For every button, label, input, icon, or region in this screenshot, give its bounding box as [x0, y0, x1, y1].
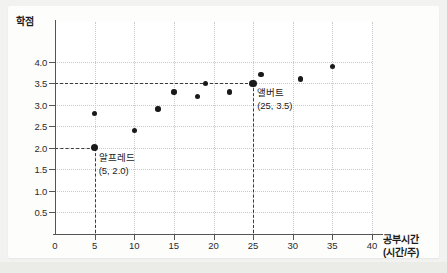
data-point — [171, 89, 176, 94]
data-point — [195, 94, 200, 99]
data-point — [227, 89, 232, 94]
y-axis-tick-label: 3.5 — [0, 78, 47, 89]
data-point — [92, 111, 97, 116]
gridline-horizontal — [55, 148, 372, 149]
x-axis-tick — [372, 234, 373, 240]
x-axis-title: 공부시간 (시간/주) — [383, 234, 419, 259]
data-point — [203, 81, 208, 86]
data-point — [155, 106, 160, 111]
y-axis-tick-label: 1.0 — [0, 185, 47, 196]
data-point — [249, 80, 256, 87]
gridline-vertical — [174, 22, 175, 234]
data-point — [132, 128, 137, 133]
annotation-name: 알프레드 — [99, 151, 135, 164]
data-point — [258, 72, 263, 77]
guide-line-vertical — [95, 148, 96, 234]
x-axis-tick-label: 15 — [159, 240, 189, 251]
x-axis-tick — [332, 234, 333, 240]
data-point — [298, 76, 303, 81]
y-axis-tick — [49, 83, 56, 84]
page-bottom-band — [0, 262, 447, 273]
x-axis-tick-label: 20 — [199, 240, 229, 251]
guide-line-vertical — [253, 83, 254, 233]
y-axis-tick — [49, 169, 56, 170]
annotation-name: 앨버트 — [257, 86, 292, 99]
y-axis-tick-label: 3.0 — [0, 99, 47, 110]
gridline-horizontal — [55, 105, 372, 106]
x-axis-tick — [253, 234, 254, 240]
x-axis-tick-label: 10 — [119, 240, 149, 251]
guide-line-horizontal — [55, 148, 95, 149]
point-annotation: 앨버트(25, 3.5) — [257, 86, 292, 112]
y-axis-tick-label: 2.5 — [0, 121, 47, 132]
x-axis-tick — [95, 234, 96, 240]
gridline-vertical — [372, 22, 373, 234]
gridline-horizontal — [55, 191, 372, 192]
x-axis-title-unit: (시간/주) — [383, 247, 419, 260]
x-axis-tick-label: 40 — [357, 240, 387, 251]
gridline-vertical — [214, 22, 215, 234]
y-axis-tick — [49, 148, 56, 149]
x-axis-tick-label: 5 — [80, 240, 110, 251]
point-annotation: 알프레드(5, 2.0) — [99, 151, 135, 177]
x-axis-tick-label: 0 — [40, 240, 70, 251]
y-axis-title: 학점 — [16, 13, 34, 28]
data-point — [91, 144, 98, 151]
x-axis-title-main: 공부시간 — [383, 234, 419, 247]
figure-card: 학점 공부시간 (시간/주) 0.51.01.52.02.53.03.54.0 … — [0, 0, 447, 273]
y-axis-tick-label: 2.0 — [0, 142, 47, 153]
y-axis-line — [55, 20, 56, 235]
y-axis-tick-label: 1.5 — [0, 164, 47, 175]
x-axis-tick — [134, 234, 135, 240]
y-axis-tick-label: 4.0 — [0, 56, 47, 67]
y-axis-tick — [49, 126, 56, 127]
x-axis-tick — [174, 234, 175, 240]
x-axis-tick — [214, 234, 215, 240]
y-axis-tick — [49, 62, 56, 63]
guide-line-horizontal — [55, 83, 253, 84]
annotation-coordinates: (5, 2.0) — [99, 164, 135, 177]
plot-area — [55, 22, 372, 234]
data-point — [330, 64, 335, 69]
annotation-coordinates: (25, 3.5) — [257, 99, 292, 112]
gridline-vertical — [293, 22, 294, 234]
y-axis-tick-label: 0.5 — [0, 207, 47, 218]
gridline-horizontal — [55, 212, 372, 213]
x-axis-tick-label: 30 — [278, 240, 308, 251]
y-axis-tick — [49, 191, 56, 192]
gridline-horizontal — [55, 62, 372, 63]
x-axis-tick-label: 35 — [317, 240, 347, 251]
y-axis-tick — [49, 105, 56, 106]
x-axis-line — [53, 234, 383, 235]
y-axis-tick — [49, 212, 56, 213]
gridline-horizontal — [55, 126, 372, 127]
x-axis-tick-label: 25 — [238, 240, 268, 251]
x-axis-tick — [293, 234, 294, 240]
gridline-vertical — [332, 22, 333, 234]
